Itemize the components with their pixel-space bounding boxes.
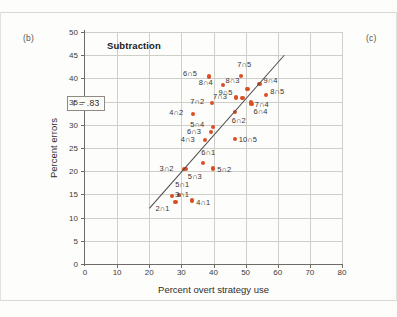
x-axis-tick-label: 20: [145, 268, 154, 277]
y-axis-tick: [81, 125, 85, 126]
data-point-label: 5∩1: [175, 180, 189, 189]
data-point: [211, 166, 215, 170]
figure-page: (b) (c) 6∩57∩58∩48∩39∩49∩58∩57∩47∩37∩26∩…: [0, 0, 397, 317]
y-axis-tick-label: 35: [69, 97, 78, 106]
x-axis-tick-label: 0: [83, 268, 87, 277]
y-axis-tick-label: 45: [69, 51, 78, 60]
data-point: [190, 198, 194, 202]
gridline-vertical: [310, 32, 311, 264]
data-point-label: 7∩2: [190, 97, 204, 106]
data-point-label: 9∩4: [263, 76, 277, 85]
data-point-label: 2∩1: [156, 204, 170, 213]
x-axis-tick-label: 30: [177, 268, 186, 277]
y-axis-tick-label: 10: [69, 213, 78, 222]
data-point-label: 8∩3: [226, 76, 240, 85]
y-axis-tick: [81, 171, 85, 172]
data-point-label: 4∩3: [181, 135, 195, 144]
x-axis-tick-label: 40: [209, 268, 218, 277]
page-border-bottom: [0, 300, 397, 301]
data-point: [245, 87, 249, 91]
y-axis-tick-label: 25: [69, 144, 78, 153]
y-axis-tick: [81, 32, 85, 33]
data-point-label: 10∩5: [239, 135, 257, 144]
y-axis-tick: [81, 194, 85, 195]
y-axis-tick-label: 20: [69, 167, 78, 176]
gridline-vertical: [149, 32, 150, 264]
data-point: [264, 93, 268, 97]
data-point-label: 7∩5: [237, 60, 251, 69]
y-axis-tick: [81, 241, 85, 242]
data-point-label: 7∩3: [213, 92, 227, 101]
chart-title: Subtraction: [107, 40, 161, 51]
data-point: [201, 161, 205, 165]
y-axis-tick: [81, 78, 85, 79]
data-point: [173, 200, 177, 204]
y-axis-tick-label: 0: [74, 260, 78, 269]
y-axis-tick: [81, 102, 85, 103]
gridline-vertical: [342, 32, 343, 264]
data-point-label: 5∩2: [217, 165, 231, 174]
plot-area: 6∩57∩58∩48∩39∩49∩58∩57∩47∩37∩26∩46∩24∩25…: [85, 32, 342, 264]
data-point-label: 4∩2: [169, 108, 183, 117]
data-point: [191, 112, 195, 116]
panel-label-c: (c): [366, 33, 377, 43]
x-axis-tick-label: 80: [338, 268, 347, 277]
scatter-plot: 6∩57∩58∩48∩39∩49∩58∩57∩47∩37∩26∩46∩24∩25…: [85, 32, 342, 264]
y-axis-title: Percent errors: [48, 118, 59, 178]
data-point: [209, 130, 213, 134]
data-point-label: 6∩2: [232, 116, 246, 125]
y-axis-tick: [81, 55, 85, 56]
data-point-label: 6∩4: [253, 107, 267, 116]
x-axis-tick-label: 10: [113, 268, 122, 277]
data-point: [249, 102, 253, 106]
y-axis-tick-label: 50: [69, 28, 78, 37]
data-point-label: 8∩4: [199, 78, 213, 87]
x-axis-tick-label: 60: [273, 268, 282, 277]
x-axis-tick-label: 70: [305, 268, 314, 277]
data-point-label: 8∩5: [270, 87, 284, 96]
data-point-label: 6∩5: [183, 69, 197, 78]
data-point-label: 3∩2: [160, 164, 174, 173]
data-point-label: 6∩1: [201, 148, 215, 157]
data-point-label: 5∩3: [188, 172, 202, 181]
y-axis-tick: [81, 148, 85, 149]
data-point: [233, 137, 237, 141]
y-axis-tick: [81, 218, 85, 219]
y-axis-tick: [81, 264, 85, 265]
y-axis-tick-label: 30: [69, 120, 78, 129]
page-border-top: [0, 12, 397, 13]
data-point: [234, 95, 238, 99]
x-axis-title: Percent overt strategy use: [158, 284, 269, 295]
gridline-vertical: [117, 32, 118, 264]
gridline-vertical: [278, 32, 279, 264]
gridline-vertical: [181, 32, 182, 264]
y-axis-tick-label: 40: [69, 74, 78, 83]
y-axis-tick-label: 15: [69, 190, 78, 199]
data-point-label: 4∩1: [196, 198, 210, 207]
data-point: [221, 83, 225, 87]
panel-label-b: (b): [23, 33, 34, 43]
data-point: [170, 194, 174, 198]
data-point-label: 3∩1: [175, 190, 189, 199]
y-axis-tick-label: 5: [74, 236, 78, 245]
page-border-left: [0, 12, 1, 301]
data-point: [239, 74, 243, 78]
x-axis-tick-label: 50: [241, 268, 250, 277]
data-point: [211, 125, 215, 129]
